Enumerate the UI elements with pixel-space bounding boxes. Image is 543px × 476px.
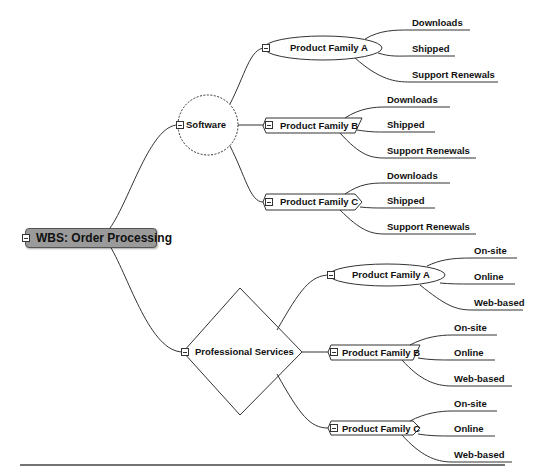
leaf-label[interactable]: Support Renewals: [387, 221, 470, 232]
leaf-label[interactable]: Shipped: [387, 119, 424, 130]
services-node-label[interactable]: Professional Services: [195, 346, 294, 357]
collapse-toggle-icon[interactable]: [262, 44, 270, 52]
software-pf-b-label[interactable]: Product Family B: [280, 120, 358, 131]
leaf-label[interactable]: On-site: [454, 398, 487, 409]
leaf-label[interactable]: Downloads: [387, 94, 438, 105]
services-pf-a-label[interactable]: Product Family A: [352, 269, 430, 280]
collapse-toggle-icon[interactable]: [330, 424, 338, 432]
leaf-label[interactable]: Online: [454, 423, 484, 434]
leaf-label[interactable]: Downloads: [387, 170, 438, 181]
leaf-label[interactable]: Support Renewals: [412, 69, 495, 80]
collapse-toggle-icon[interactable]: [265, 198, 273, 206]
collapse-toggle-icon[interactable]: [330, 348, 338, 356]
leaf-label[interactable]: Online: [454, 347, 484, 358]
services-pf-b-label[interactable]: Product Family B: [342, 347, 420, 358]
software-pf-a-label[interactable]: Product Family A: [290, 42, 368, 53]
leaf-label[interactable]: Shipped: [412, 43, 449, 54]
leaf-label[interactable]: Online: [474, 271, 504, 282]
leaf-label[interactable]: Shipped: [387, 195, 424, 206]
root-node[interactable]: WBS: Order Processing: [25, 228, 157, 248]
collapse-toggle-icon[interactable]: [327, 271, 335, 279]
services-pf-c-label[interactable]: Product Family C: [342, 423, 420, 434]
leaf-label[interactable]: On-site: [454, 322, 487, 333]
collapse-toggle-icon[interactable]: [176, 121, 184, 129]
software-node-label[interactable]: Software: [186, 119, 226, 130]
leaf-label[interactable]: Downloads: [412, 17, 463, 28]
leaf-label[interactable]: Web-based: [454, 373, 505, 384]
leaf-label[interactable]: On-site: [474, 245, 507, 256]
leaf-label[interactable]: Web-based: [474, 297, 525, 308]
leaf-label[interactable]: Web-based: [454, 449, 505, 460]
collapse-toggle-icon[interactable]: [181, 348, 189, 356]
collapse-toggle-icon[interactable]: [265, 121, 273, 129]
leaf-label[interactable]: Support Renewals: [387, 145, 470, 156]
root-node-label: WBS: Order Processing: [36, 231, 172, 245]
software-pf-c-label[interactable]: Product Family C: [280, 196, 358, 207]
collapse-toggle-icon[interactable]: [22, 234, 30, 242]
